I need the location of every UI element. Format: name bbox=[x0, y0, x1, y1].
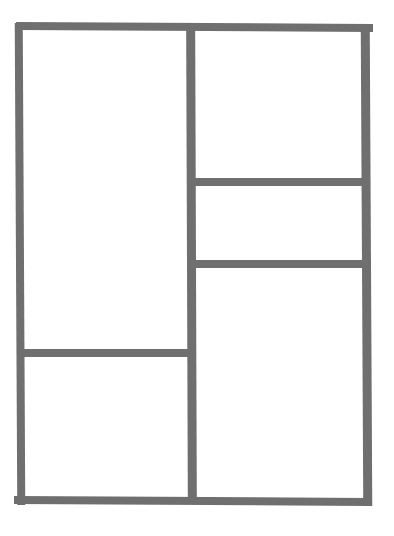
panel-left-bottom bbox=[24, 357, 187, 497]
panel-right-bottom bbox=[196, 268, 362, 497]
panel-right-middle bbox=[196, 186, 362, 260]
right-horizontal-divider-1 bbox=[192, 178, 366, 186]
left-horizontal-divider bbox=[20, 349, 190, 357]
panel-right-top bbox=[196, 31, 362, 178]
panel-left-top bbox=[24, 31, 187, 349]
right-horizontal-divider-2 bbox=[192, 260, 366, 268]
